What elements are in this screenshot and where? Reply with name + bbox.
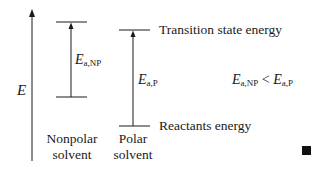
- nonpolar-ea-symbol: E: [75, 52, 84, 67]
- nonpolar-ea-subscript: a,NP: [84, 58, 102, 68]
- polar-ea-symbol: E: [138, 72, 147, 87]
- nonpolar-ea-label: Ea,NP: [75, 53, 101, 70]
- polar-arrowhead-icon: [131, 31, 136, 38]
- polar-ea-label: Ea,P: [138, 73, 158, 90]
- transition-state-label: Transition state energy: [159, 23, 282, 36]
- reactants-energy-label: Reactants energy: [159, 119, 251, 132]
- activation-energy-relation: Ea,NP < Ea,P: [232, 73, 293, 90]
- polar-solvent-label: Polar solvent: [114, 131, 153, 163]
- relation-right-subscript: a,P: [282, 78, 293, 88]
- end-of-example-square-icon: [302, 146, 311, 155]
- energy-axis-label: E: [17, 83, 26, 98]
- relation-left-symbol: E: [232, 72, 241, 87]
- nonpolar-solvent-line1: Nonpolar: [47, 131, 98, 147]
- nonpolar-solvent-line2: solvent: [47, 147, 98, 163]
- nonpolar-arrowhead-icon: [69, 23, 74, 30]
- nonpolar-solvent-label: Nonpolar solvent: [47, 131, 98, 163]
- polar-solvent-line2: solvent: [114, 147, 153, 163]
- relation-right-symbol: E: [273, 72, 282, 87]
- polar-ea-subscript: a,P: [147, 78, 158, 88]
- relation-operator: <: [262, 72, 270, 87]
- energy-axis-arrowhead-icon: [29, 9, 35, 17]
- relation-left-subscript: a,NP: [241, 78, 259, 88]
- polar-solvent-line1: Polar: [114, 131, 153, 147]
